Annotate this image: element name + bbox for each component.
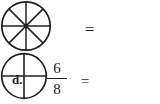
- center-dot: [24, 24, 28, 28]
- circle-eighths-graphic: [0, 0, 52, 52]
- item-letter: d.: [12, 72, 22, 88]
- answer-blank-field[interactable]: [96, 71, 150, 91]
- fraction-numerator: 6: [46, 58, 68, 77]
- circle-divided-eighths: [0, 0, 52, 52]
- fraction-denominator: 8: [46, 80, 68, 98]
- fraction-figure-row: =: [0, 0, 160, 58]
- equals-sign-figure: =: [83, 19, 96, 41]
- equals-sign-answer: =: [78, 71, 92, 91]
- worksheet-problem-d: = d. 6 8 =: [0, 0, 160, 104]
- fraction-six-eighths: 6 8: [46, 58, 68, 102]
- fraction-bar: [47, 78, 67, 79]
- answer-row: d. 6 8 =: [0, 58, 160, 104]
